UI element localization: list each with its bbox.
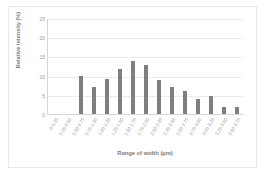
bar-slot [165, 19, 178, 114]
bar[interactable] [235, 107, 239, 114]
y-tick-label: 5 [29, 93, 45, 99]
bar[interactable] [105, 79, 109, 114]
bar[interactable] [222, 107, 226, 114]
y-axis-title: Relative intensity (%) [15, 0, 21, 80]
bar-slot [62, 19, 75, 114]
bar-slot [101, 19, 114, 114]
bar-slot [127, 19, 140, 114]
y-axis-tick-labels: 0510152025 [29, 15, 45, 119]
y-tick-label: 15 [29, 54, 45, 60]
bar[interactable] [170, 87, 174, 114]
bar-slot [114, 19, 127, 114]
bar[interactable] [144, 65, 148, 114]
bar[interactable] [92, 87, 96, 114]
bar[interactable] [157, 80, 161, 114]
y-tick-label: 10 [29, 74, 45, 80]
bar-slot [178, 19, 191, 114]
plot-area [47, 19, 243, 115]
y-tick-label: 25 [29, 16, 45, 22]
bar[interactable] [118, 69, 122, 114]
chart-container: Relative intensity (%) 0510152025 0-0.25… [8, 6, 257, 168]
bar[interactable] [209, 96, 213, 114]
y-tick-label: 0 [29, 112, 45, 118]
bar-slot [153, 19, 166, 114]
bar-slot [204, 19, 217, 114]
x-tick-label: 0-0.25 [48, 117, 59, 131]
bar[interactable] [79, 76, 83, 114]
bar-slot [88, 19, 101, 114]
bar[interactable] [196, 99, 200, 114]
x-slot: 3.50-3.75 [231, 116, 244, 148]
bar-slot [217, 19, 230, 114]
x-axis-tick-labels: 0-0.250.25-0.500.50-0.750.75-1.001.00-1.… [48, 116, 244, 148]
bar-slot [140, 19, 153, 114]
bar[interactable] [183, 91, 187, 114]
bar-slot [75, 19, 88, 114]
x-axis-title: Range of width (µm) [47, 150, 243, 156]
bar-slot [49, 19, 62, 114]
bar-slot [191, 19, 204, 114]
bar-series [49, 19, 243, 114]
y-tick-label: 20 [29, 35, 45, 41]
bar-slot [230, 19, 243, 114]
bar[interactable] [131, 61, 135, 114]
